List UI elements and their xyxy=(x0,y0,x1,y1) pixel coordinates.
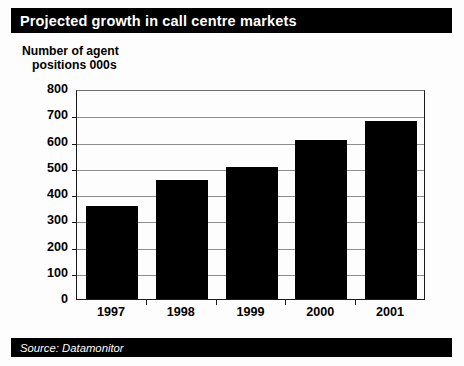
y-axis-tick-mark xyxy=(72,144,77,145)
x-axis-tick-label: 1998 xyxy=(146,305,216,319)
y-axis-tick-mark xyxy=(72,170,77,171)
y-axis-tick-label: 600 xyxy=(0,135,68,149)
bar xyxy=(156,180,208,299)
bar xyxy=(365,121,417,300)
y-axis-tick-labels: 0100200300400500600700800 xyxy=(0,0,70,366)
x-axis-tick-label: 2000 xyxy=(285,305,355,319)
y-axis-tick-label: 700 xyxy=(0,108,68,122)
y-axis-tick-mark xyxy=(72,249,77,250)
y-axis-tick-mark xyxy=(72,196,77,197)
y-axis-tick-mark xyxy=(72,222,77,223)
y-axis-tick-label: 500 xyxy=(0,161,68,175)
chart-figure: Projected growth in call centre markets … xyxy=(0,0,464,366)
y-axis-tick-label: 800 xyxy=(0,82,68,96)
x-axis-tick-label: 2001 xyxy=(355,305,425,319)
gridline xyxy=(77,117,424,118)
x-axis-tick-label: 1999 xyxy=(216,305,286,319)
y-axis-tick-label: 0 xyxy=(0,292,68,306)
plot-area xyxy=(76,90,425,300)
source-note: Source: Datamonitor xyxy=(20,342,124,354)
bar xyxy=(295,140,347,299)
bar xyxy=(226,167,278,299)
bar xyxy=(86,206,138,299)
y-axis-tick-mark xyxy=(72,117,77,118)
y-axis-tick-mark xyxy=(72,275,77,276)
x-axis-tick-label: 1997 xyxy=(76,305,146,319)
y-axis-tick-label: 400 xyxy=(0,187,68,201)
y-axis-tick-label: 200 xyxy=(0,240,68,254)
source-bar: Source: Datamonitor xyxy=(11,338,452,357)
chart-title-bar: Projected growth in call centre markets xyxy=(11,8,452,33)
y-axis-tick-label: 300 xyxy=(0,213,68,227)
y-axis-tick-label: 100 xyxy=(0,266,68,280)
